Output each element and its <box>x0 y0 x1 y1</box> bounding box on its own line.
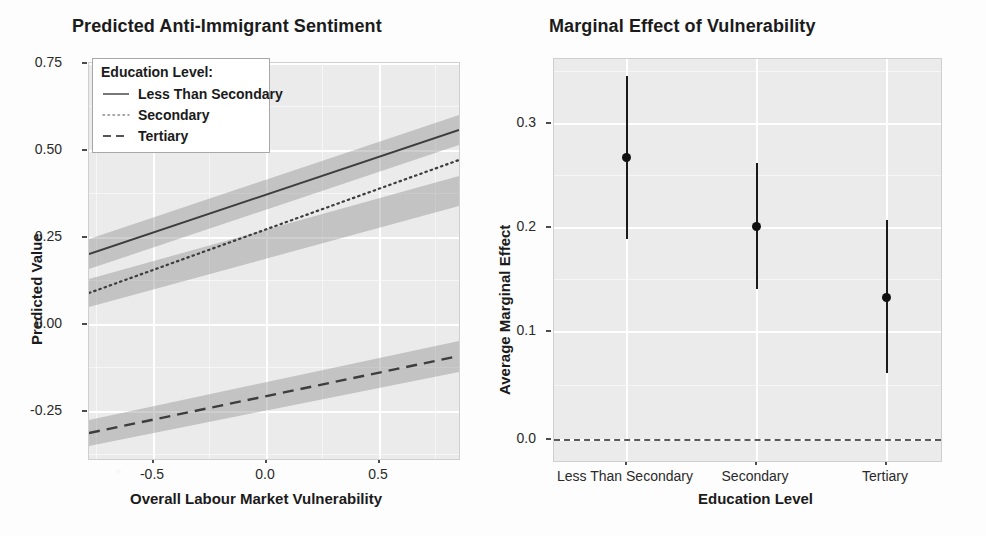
right-grid-h-minor-0 <box>554 71 941 72</box>
legend-title: Education Level: <box>101 64 260 80</box>
left-panel-title: Predicted Anti-Immigrant Sentiment <box>72 16 382 37</box>
right-y-tick-3 <box>546 438 551 440</box>
right-plot-area <box>553 58 942 462</box>
left-y-tick-0 <box>82 62 87 64</box>
legend-key-dotted-line-icon <box>101 108 131 122</box>
legend-label-tertiary: Tertiary <box>138 128 188 144</box>
legend-label-less-than-secondary: Less Than Secondary <box>138 86 283 102</box>
figure-canvas: Predicted Anti-Immigrant Sentiment Predi… <box>0 0 986 536</box>
left-y-ticklabel-1: 0.50 <box>16 141 62 157</box>
legend-item-tertiary[interactable]: Tertiary <box>101 125 260 146</box>
left-x-ticklabel-1: 0.0 <box>235 466 295 482</box>
left-x-ticklabel-0: -0.5 <box>122 466 182 482</box>
legend-label-secondary: Secondary <box>138 107 210 123</box>
point-less-than-secondary[interactable] <box>622 153 631 162</box>
education-level-legend: Education Level: Less Than Secondary Sec… <box>92 58 270 153</box>
right-grid-h-1 <box>554 227 941 229</box>
left-x-ticklabel-2: 0.5 <box>348 466 408 482</box>
legend-item-less-than-secondary[interactable]: Less Than Secondary <box>101 83 260 104</box>
left-y-ticklabel-0: 0.75 <box>16 54 62 70</box>
right-grid-h-0 <box>554 123 941 125</box>
left-y-ticklabel-4: -0.25 <box>10 402 62 418</box>
left-y-tick-1 <box>82 149 87 151</box>
point-tertiary[interactable] <box>882 293 891 302</box>
right-panel-y-axis-title: Average Marginal Effect <box>496 225 513 395</box>
left-y-ticklabel-3: 0.00 <box>16 315 62 331</box>
right-y-tick-1 <box>546 226 551 228</box>
legend-item-secondary[interactable]: Secondary <box>101 104 260 125</box>
right-y-tick-2 <box>546 330 551 332</box>
left-panel-x-axis-title: Overall Labour Market Vulnerability <box>130 490 382 507</box>
zero-reference-line <box>554 439 941 441</box>
right-y-ticklabel-0: 0.3 <box>500 114 536 130</box>
right-grid-h-minor-1 <box>554 175 941 176</box>
right-grid-h-2 <box>554 331 941 333</box>
legend-key-solid-line-icon <box>101 87 131 101</box>
right-y-ticklabel-3: 0.0 <box>500 430 536 446</box>
left-y-tick-3 <box>82 323 87 325</box>
right-y-ticklabel-2: 0.1 <box>500 322 536 338</box>
left-y-ticklabel-2: 0.25 <box>16 228 62 244</box>
right-grid-h-minor-2 <box>554 279 941 280</box>
left-y-tick-4 <box>82 410 87 412</box>
right-x-ticklabel-1: Secondary <box>705 468 805 484</box>
right-y-ticklabel-1: 0.2 <box>500 218 536 234</box>
right-grid-h-minor-3 <box>554 385 941 386</box>
right-x-ticklabel-0: Less Than Secondary <box>555 468 695 484</box>
right-y-tick-0 <box>546 122 551 124</box>
point-secondary[interactable] <box>752 222 761 231</box>
right-panel-x-axis-title: Education Level <box>698 490 813 507</box>
left-y-tick-2 <box>82 236 87 238</box>
right-x-ticklabel-2: Tertiary <box>843 468 927 484</box>
right-panel-title: Marginal Effect of Vulnerability <box>549 16 816 37</box>
legend-key-dashed-line-icon <box>101 129 131 143</box>
